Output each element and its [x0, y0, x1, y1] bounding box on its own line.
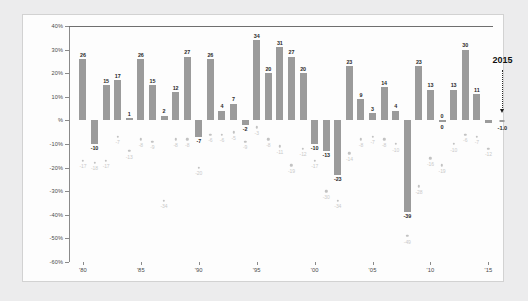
scatter-point [174, 138, 176, 140]
bar [253, 40, 260, 120]
bar [462, 50, 469, 121]
scatter-point-label: -28 [415, 189, 422, 195]
bar [415, 66, 422, 120]
scatter-point [267, 138, 269, 140]
bar-value-label: -7 [196, 138, 201, 144]
bar-value-label: 31 [277, 40, 283, 46]
bar-value-label: 26 [138, 52, 144, 58]
y-tick [65, 168, 69, 169]
bar-value-label: 1 [128, 111, 131, 117]
x-tick-label: '85 [137, 267, 145, 273]
x-tick-label: '90 [195, 267, 203, 273]
x-tick-label: '15 [484, 267, 492, 273]
scatter-point-label: -20 [195, 170, 202, 176]
y-tick-label: 10% [52, 94, 64, 100]
bar-value-label: 13 [428, 82, 434, 88]
bar [126, 118, 133, 120]
x-tick-label: '10 [427, 267, 435, 273]
bar [184, 57, 191, 121]
scatter-point-label: -5 [231, 135, 235, 141]
y-tick [65, 50, 69, 51]
chart-panel: 40%30%20%10%%-10%-20%-30%-40%-50%-60% '8… [22, 14, 504, 282]
bar [439, 120, 446, 121]
bar-value-label: 34 [254, 33, 260, 39]
y-tick-label: -20% [50, 165, 63, 171]
callout-value-label: -1.0 [498, 125, 508, 131]
y-tick [65, 97, 69, 98]
bar [195, 120, 202, 137]
scatter-point [371, 136, 373, 138]
x-tick [430, 262, 431, 265]
scatter-point [232, 131, 234, 133]
bar [404, 120, 411, 212]
bar [149, 85, 156, 120]
scatter-point [163, 199, 165, 201]
bar [218, 111, 225, 120]
bar [114, 80, 121, 120]
x-tick [488, 262, 489, 265]
bar [79, 59, 86, 120]
callout-arrow-head [500, 109, 504, 113]
bar [392, 111, 399, 120]
bar-value-label: -23 [334, 176, 342, 182]
bar-value-label: 4 [394, 103, 397, 109]
x-tick [257, 262, 258, 265]
scatter-point-label: -17 [311, 163, 318, 169]
y-tick-label: -30% [50, 188, 63, 194]
scatter-point [221, 133, 223, 135]
bar [172, 92, 179, 120]
bar-value-label: 4 [220, 103, 223, 109]
scatter-point [348, 152, 350, 154]
scatter-point-label: -7 [370, 139, 374, 145]
scatter-point [302, 148, 304, 150]
scatter-point-label: -8 [359, 142, 363, 148]
scatter-point [255, 126, 257, 128]
scatter-point [244, 140, 246, 142]
bar-value-label: 30 [462, 42, 468, 48]
bar-value-label: 23 [416, 59, 422, 65]
scatter-point [140, 138, 142, 140]
y-axis-line [69, 26, 70, 262]
scatter-point [406, 235, 408, 237]
bar [242, 120, 249, 125]
scatter-point-label: -17 [79, 163, 86, 169]
bar [473, 94, 480, 120]
scatter-point [209, 133, 211, 135]
bar-value-label: 14 [381, 80, 387, 86]
scatter-point [290, 164, 292, 166]
scatter-point-label: -8 [266, 142, 270, 148]
bar [230, 104, 237, 121]
bar-value-label: 2 [163, 108, 166, 114]
bar [207, 59, 214, 120]
x-tick-label: '95 [253, 267, 261, 273]
bar [485, 120, 492, 122]
y-tick [65, 26, 69, 27]
scatter-point-label: -9 [243, 144, 247, 150]
y-tick [65, 73, 69, 74]
bar-value-label: -39 [404, 213, 412, 219]
scatter-point [464, 133, 466, 135]
scatter-point-label: -13 [126, 154, 133, 160]
bar [334, 120, 341, 174]
scatter-point-label: -18 [91, 165, 98, 171]
scatter-point [418, 185, 420, 187]
bar-value-label: 27 [184, 49, 190, 55]
y-tick-label: -40% [50, 212, 63, 218]
scatter-point-label: -19 [439, 168, 446, 174]
scatter-point [360, 138, 362, 140]
y-tick-label: % [58, 117, 63, 123]
scatter-point [151, 140, 153, 142]
y-tick-label: 20% [52, 70, 64, 76]
scatter-point [279, 145, 281, 147]
scatter-point-label: -12 [300, 151, 307, 157]
scatter-point [198, 166, 200, 168]
zero-baseline [69, 26, 493, 27]
y-tick-label: -60% [50, 259, 63, 265]
bar-value-label: 7 [232, 96, 235, 102]
bar [265, 73, 272, 120]
scatter-point [325, 190, 327, 192]
bar-value-label: 15 [150, 78, 156, 84]
year-callout-label: 2015 [492, 55, 512, 65]
y-tick-label: -10% [50, 141, 63, 147]
y-tick [65, 191, 69, 192]
